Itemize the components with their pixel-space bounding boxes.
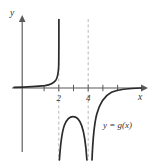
x-tick-label-4: 4 xyxy=(86,93,91,103)
curve-annotation-label: y = g(x) xyxy=(102,120,132,130)
function-graph-plot: y x 2 4 y = g(x) xyxy=(0,0,151,163)
curve-branch-middle xyxy=(59,117,87,160)
graph-figure: y x 2 4 y = g(x) xyxy=(0,0,151,163)
x-axis-arrowhead xyxy=(141,85,148,92)
x-axis-label: x xyxy=(137,92,143,102)
x-tick-label-2: 2 xyxy=(57,93,62,103)
y-axis-label: y xyxy=(9,8,15,18)
curve-branch-left xyxy=(14,20,59,88)
y-axis-arrowhead xyxy=(19,15,26,22)
